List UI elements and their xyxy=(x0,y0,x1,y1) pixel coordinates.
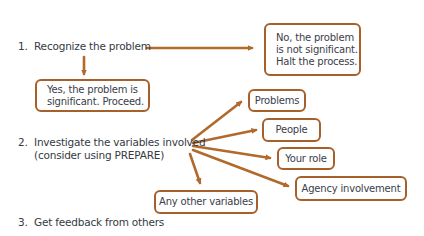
outcome-yes-line-1: Yes, the problem is xyxy=(47,84,138,96)
step-1-number: 1. xyxy=(18,40,34,53)
step-1: 1.Recognize the problem xyxy=(18,40,151,53)
variable-other-box: Any other variables xyxy=(154,190,258,214)
variable-agency-label: Agency involvement xyxy=(302,183,401,195)
outcome-no-line-3: Halt the process. xyxy=(276,56,357,68)
step-3-text: Get feedback from others xyxy=(34,216,164,228)
step-3: 3.Get feedback from others xyxy=(18,216,164,229)
variable-your-role-label: Your role xyxy=(285,153,327,165)
outcome-no-line-2: is not significant. xyxy=(276,44,358,56)
variable-other-label: Any other variables xyxy=(159,196,253,208)
variable-people-label: People xyxy=(275,124,307,136)
outcome-no-box: No, the problem is not significant. Halt… xyxy=(264,23,361,76)
step-3-number: 3. xyxy=(18,216,34,229)
step-2-text: Investigate the variables involved xyxy=(34,136,205,148)
step-1-text: Recognize the problem xyxy=(34,40,151,52)
variable-people-box: People xyxy=(262,118,321,142)
step-2: 2.Investigate the variables involved (co… xyxy=(18,136,205,162)
outcome-no-line-1: No, the problem xyxy=(276,32,354,44)
variable-agency-box: Agency involvement xyxy=(295,176,407,201)
step-2-number: 2. xyxy=(18,136,34,149)
variable-problems-box: Problems xyxy=(248,89,306,112)
outcome-yes-box: Yes, the problem is significant. Proceed… xyxy=(35,79,150,112)
variable-your-role-box: Your role xyxy=(277,147,335,170)
variable-problems-label: Problems xyxy=(255,95,300,107)
arrow-to-agency xyxy=(193,150,288,186)
step-2-subtext: (consider using PREPARE) xyxy=(18,149,205,162)
decision-flow-diagram: 1.Recognize the problem 2.Investigate th… xyxy=(0,0,424,236)
outcome-yes-line-2: significant. Proceed. xyxy=(47,96,144,108)
